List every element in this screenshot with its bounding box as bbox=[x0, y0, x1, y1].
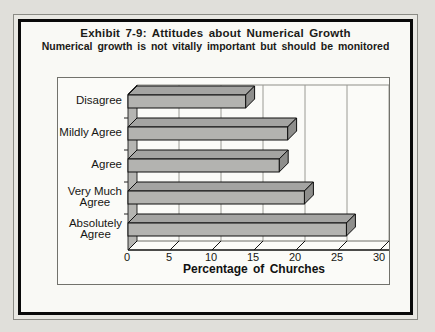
scanned-book-page: { "figure": { "title": "Exhibit 7-9: Att… bbox=[0, 0, 435, 332]
category-label-absolutely-agree: Absolutely Agree bbox=[69, 217, 122, 240]
x-tick-mark-30 bbox=[380, 241, 389, 250]
category-label-very-much-agree: Very Much Agree bbox=[68, 185, 122, 208]
bar-disagree bbox=[128, 95, 246, 108]
x-tick-mark-25 bbox=[338, 241, 347, 250]
x-tick-mark-10 bbox=[212, 241, 221, 250]
x-tick-label-25: 25 bbox=[331, 251, 343, 263]
category-label-disagree: Disagree bbox=[76, 95, 122, 107]
figure-title: Exhibit 7-9: Attitudes about Numerical G… bbox=[21, 27, 410, 40]
x-axis-title: Percentage of Churches bbox=[183, 262, 325, 276]
bar-top-face-very-much-agree bbox=[128, 182, 313, 191]
bar-very-much-agree bbox=[128, 191, 304, 204]
bar-top-face-disagree bbox=[128, 86, 255, 95]
bar-mildly-agree bbox=[128, 127, 288, 140]
bar-top-face-mildly-agree bbox=[128, 118, 297, 127]
bar-absolutely-agree bbox=[128, 223, 346, 236]
x-tick-label-5: 5 bbox=[166, 251, 172, 263]
x-tick-mark-20 bbox=[296, 241, 305, 250]
category-label-mildly-agree: Mildly Agree bbox=[59, 127, 122, 139]
figure-subtitle: Numerical growth is not vitally importan… bbox=[21, 40, 410, 52]
bar-top-face-agree bbox=[128, 150, 288, 159]
bar-agree bbox=[128, 159, 279, 172]
category-label-agree: Agree bbox=[91, 159, 122, 171]
x-tick-label-0: 0 bbox=[124, 251, 130, 263]
x-tick-mark-5 bbox=[170, 241, 179, 250]
x-tick-label-30: 30 bbox=[373, 251, 385, 263]
figure-header: Exhibit 7-9: Attitudes about Numerical G… bbox=[21, 27, 410, 52]
bar-top-face-absolutely-agree bbox=[128, 214, 355, 223]
x-tick-mark-15 bbox=[254, 241, 263, 250]
